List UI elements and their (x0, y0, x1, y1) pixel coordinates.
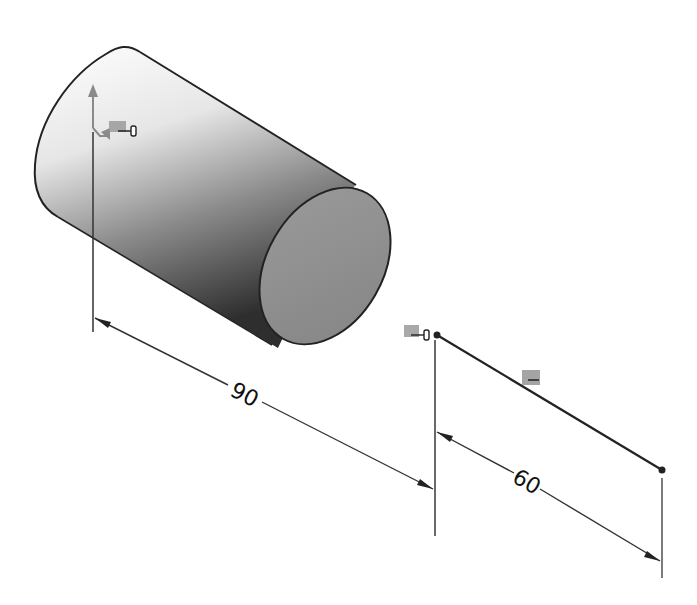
cad-drawing-canvas: 90 60 (0, 0, 697, 605)
sketch-line-start-point[interactable] (434, 332, 441, 339)
dimension-value-60[interactable]: 60 (508, 464, 545, 500)
dimension-60[interactable]: 60 (437, 432, 660, 561)
relation-end-icon (424, 330, 429, 340)
dimension-90[interactable]: 90 (95, 318, 433, 489)
horizontal-relation-icon[interactable] (522, 370, 540, 385)
relation-end-icon (131, 126, 136, 136)
dimension-arrow-left-icon (437, 432, 453, 442)
dimension-value-90[interactable]: 90 (227, 377, 263, 412)
dimension-arrow-right-icon (644, 551, 660, 561)
dimension-line-90-a (95, 318, 228, 385)
sketch-line-end-point[interactable] (659, 467, 666, 474)
dimension-line-90-b (262, 402, 433, 489)
dimension-arrow-left-icon (95, 318, 111, 328)
sketch-line[interactable] (404, 325, 666, 474)
dimension-line-60-b (540, 489, 660, 561)
dimension-arrow-right-icon (417, 479, 433, 489)
